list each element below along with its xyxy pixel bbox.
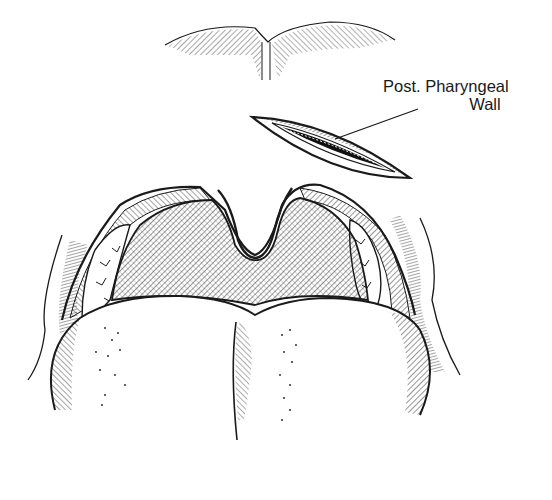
label-line-1: Post. Pharyngeal: [383, 77, 509, 95]
incision-inset: [252, 117, 410, 178]
upper-lip-region: [165, 22, 395, 80]
label-leader-line: [335, 109, 418, 139]
tongue: [51, 296, 430, 440]
label-line-2: Wall: [383, 95, 509, 113]
figure-canvas: Post. Pharyngeal Wall: [0, 0, 552, 500]
label-post-pharyngeal-wall: Post. Pharyngeal Wall: [383, 77, 509, 113]
anatomy-illustration: [0, 0, 552, 500]
soft-palate-oropharynx: [112, 198, 368, 305]
